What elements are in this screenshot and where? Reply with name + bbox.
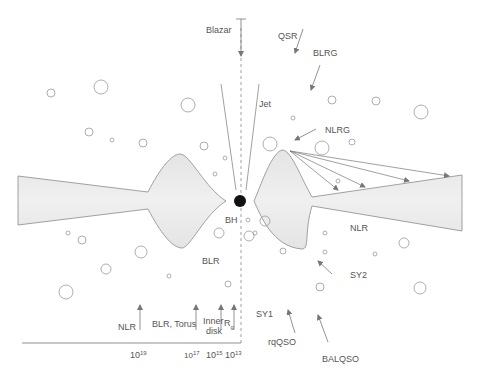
right-torus-disk [254, 150, 462, 249]
black-hole [234, 195, 246, 207]
tick-base: 10 [130, 350, 140, 360]
label-sy1: SY1 [256, 309, 273, 319]
label-balqso: BALQSO [322, 354, 359, 364]
label-jet: Jet [259, 99, 271, 109]
tick-exp: 17 [193, 350, 200, 356]
tick-exp: 19 [140, 350, 147, 356]
tick-base: 10 [206, 350, 216, 360]
label-rqqso: rqQSO [268, 337, 296, 347]
tick-base: 10 [225, 350, 235, 360]
scale-label-disk: disk [206, 326, 222, 336]
label-qsr: QSR [278, 31, 298, 41]
left-torus-disk [18, 154, 226, 248]
label-nlrg: NLRG [325, 125, 350, 135]
scale-label-nlr: NLR [118, 322, 136, 332]
label-bh: BH [225, 215, 238, 225]
tick-exp: 15 [216, 350, 223, 356]
rg-main: R [224, 318, 231, 328]
tick-1e13: 1013 [225, 348, 242, 360]
scale-label-blr-torus: BLR, Torus [152, 319, 196, 329]
rg-sub: g [231, 324, 234, 330]
tick-base: 10 [184, 351, 193, 360]
agn-unification-diagram [0, 0, 480, 377]
label-blazar: Blazar [206, 25, 232, 35]
label-sy2: SY2 [350, 270, 367, 280]
label-nlr-right: NLR [350, 223, 368, 233]
label-blrg: BLRG [313, 48, 338, 58]
jet-cone [221, 84, 259, 190]
scale-label-rg: Rg [224, 318, 234, 329]
tick-1e15: 1015 [206, 348, 223, 360]
scale-label-inner: Inner [203, 316, 224, 326]
tick-1e17: 1017 [184, 348, 200, 361]
tick-1e19: 1019 [130, 348, 147, 360]
label-blr: BLR [202, 256, 220, 266]
tick-exp: 13 [235, 350, 242, 356]
